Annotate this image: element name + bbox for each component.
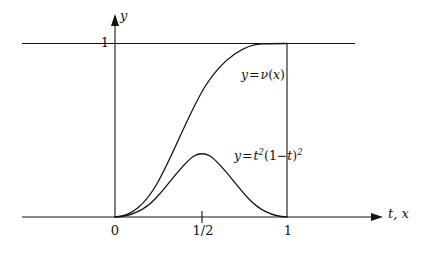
curve-annotation-sigmoid: y=ν(x) <box>241 69 285 82</box>
curve-annotation-bump-minus: − <box>277 148 287 163</box>
curve-annotation-bump-lhs: y <box>234 148 241 163</box>
curve-annotation-sigmoid-equals: = <box>248 67 260 82</box>
x-tick-label-0: 0 <box>108 224 122 237</box>
x-axis-arrow-icon <box>371 213 383 221</box>
x-tick-label-one: 1 <box>281 224 295 237</box>
curve-annotation-sigmoid-nu: ν <box>261 67 269 82</box>
y-tick-label-one: 1 <box>98 36 112 49</box>
curve-annotation-sigmoid-lhs: y <box>241 67 248 82</box>
curve-bump-quartic <box>115 154 287 217</box>
y-axis-arrow-icon <box>111 14 119 26</box>
figure-canvas: y t, x 0 1/2 1 1 y=ν(x) y=t2(1−t)2 <box>0 0 427 253</box>
curve-annotation-bump-one: 1 <box>269 148 277 163</box>
x-tick-label-half: 1/2 <box>188 224 218 237</box>
curve-annotation-bump-equals: = <box>241 148 253 163</box>
x-axis-label: t, x <box>388 207 409 220</box>
plot-svg <box>0 0 427 253</box>
y-axis-label: y <box>120 9 127 22</box>
curve-annotation-sigmoid-paren-close: ) <box>280 67 285 82</box>
curve-annotation-bump: y=t2(1−t)2 <box>234 150 303 163</box>
curve-annotation-bump-exponent-2: 2 <box>297 147 302 157</box>
